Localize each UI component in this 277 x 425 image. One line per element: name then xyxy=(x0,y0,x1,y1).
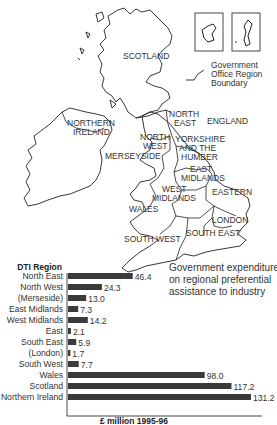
label-yorks-3: HUMBER xyxy=(181,152,218,162)
category-label: East xyxy=(46,326,64,336)
label-south-east: SOUTH EAST xyxy=(186,228,240,238)
category-label: West Midlands xyxy=(7,315,63,325)
bar-wales xyxy=(68,372,205,378)
label-south-west: SOUTH WEST xyxy=(124,234,181,244)
value-label: 2.1 xyxy=(73,327,85,337)
chart-title-3: assistance to industry xyxy=(169,286,265,297)
label-scotland: SCOTLAND xyxy=(123,51,169,61)
value-label: 24.3 xyxy=(104,283,121,293)
bar-south-east xyxy=(68,339,76,345)
x-axis-title: £ million 1995-96 xyxy=(100,416,168,425)
label-wales: WALES xyxy=(129,204,159,214)
category-label: (Merseside) xyxy=(18,293,64,303)
bar-east-midlands xyxy=(68,306,78,312)
orkney-islands xyxy=(202,24,216,42)
category-label: North East xyxy=(22,271,63,281)
value-label: 46.4 xyxy=(135,272,152,282)
label-eastern: EASTERN xyxy=(212,187,252,197)
value-label: 7.7 xyxy=(81,360,93,370)
bar-south-west xyxy=(68,361,79,367)
label-england: ENGLAND xyxy=(207,116,248,126)
value-label: 7.3 xyxy=(80,305,92,315)
category-label: Scotland xyxy=(30,381,64,391)
figure: Government Office Region Boundary SCOTLA… xyxy=(0,0,277,425)
legend-line-3: Boundary xyxy=(211,78,248,88)
shetland-islands xyxy=(244,20,252,46)
bar-north-west xyxy=(68,284,102,290)
value-label: 14.2 xyxy=(90,316,107,326)
category-label: Northern Ireland xyxy=(1,392,63,402)
label-nw-2: WEST xyxy=(143,141,168,151)
category-label: (London) xyxy=(29,348,64,358)
bar-east xyxy=(68,328,71,334)
value-label: 5.9 xyxy=(78,338,90,348)
value-label: 98.0 xyxy=(207,371,224,381)
value-label: 1.7 xyxy=(72,349,84,359)
value-label: 13.0 xyxy=(88,294,105,304)
label-london: LONDON xyxy=(212,215,248,225)
category-label: South East xyxy=(21,337,64,347)
value-label: 117.2 xyxy=(233,382,254,392)
category-label: East Midlands xyxy=(9,304,63,314)
category-label: Wales xyxy=(39,370,63,380)
bar-merseside xyxy=(68,295,86,301)
value-label: 131.2 xyxy=(253,393,275,403)
bar-scotland xyxy=(68,383,231,389)
chart-title-2: on regional preferential xyxy=(169,274,271,285)
label-merseyside: MERSEYSIDE xyxy=(105,151,161,161)
boundary-legend-line xyxy=(186,70,204,80)
label-em-2: MIDLANDS xyxy=(181,173,225,183)
fair-isle xyxy=(235,41,237,43)
label-wm-2: MIDLANDS xyxy=(152,193,196,203)
category-label: North West xyxy=(20,282,63,292)
bar-london xyxy=(68,350,70,356)
scotland-outline xyxy=(98,8,172,118)
inset-orkney xyxy=(195,13,223,51)
bar-northern-ireland xyxy=(68,394,251,400)
scotland-islands xyxy=(78,12,116,108)
category-label: South West xyxy=(19,359,64,369)
bar-chart: DTI Region Government expenditure on reg… xyxy=(1,262,277,425)
label-ni-2: IRELAND xyxy=(73,127,110,137)
bar-north-east xyxy=(68,273,133,279)
bar-west-midlands xyxy=(68,317,88,323)
chart-title-1: Government expenditure xyxy=(169,262,277,273)
label-ne-2: EAST xyxy=(174,118,196,128)
inset-boxes xyxy=(195,13,260,51)
